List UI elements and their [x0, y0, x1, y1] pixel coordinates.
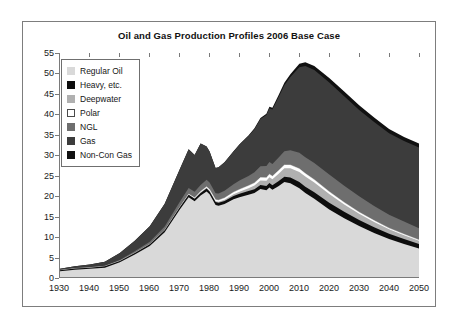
legend-item: Deepwater: [67, 92, 132, 106]
x-axis-tick-mark: [209, 53, 210, 57]
x-axis-tick-label: 1950: [109, 283, 129, 293]
y-axis-tick-mark: [55, 176, 59, 177]
y-axis-tick-mark: [55, 73, 59, 74]
y-axis-tick-label: 15: [44, 212, 54, 222]
y-axis-tick-label: 10: [44, 232, 54, 242]
x-axis-tick-mark: [299, 53, 300, 57]
x-axis-tick-mark: [269, 53, 270, 57]
x-axis-tick-label: 1930: [49, 283, 69, 293]
legend-item: Gas: [67, 134, 132, 148]
legend-label: Heavy, etc.: [80, 81, 122, 90]
legend-swatch-icon: [67, 67, 75, 75]
y-axis-tick-mark: [55, 135, 59, 136]
y-axis-tick-mark: [55, 278, 59, 279]
x-axis-tick-mark: [59, 53, 60, 57]
y-axis-tick-label: 30: [44, 150, 54, 160]
legend-swatch-icon: [67, 81, 75, 89]
y-axis-tick-label: 35: [44, 130, 54, 140]
y-axis-tick-mark: [55, 94, 59, 95]
x-axis-tick-mark: [239, 53, 240, 57]
y-axis-tick-label: 50: [44, 68, 54, 78]
chart-frame: Oil and Gas Production Profiles 2006 Bas…: [22, 21, 436, 307]
legend-label: Regular Oil: [80, 67, 123, 76]
legend-item: Heavy, etc.: [67, 78, 132, 92]
y-axis-tick-label: 25: [44, 171, 54, 181]
x-axis-tick-label: 2030: [349, 283, 369, 293]
y-axis-tick-mark: [55, 237, 59, 238]
legend-item: Non-Con Gas: [67, 148, 132, 162]
x-axis-tick-mark: [359, 53, 360, 57]
y-axis-tick-label: 0: [49, 273, 54, 283]
x-axis-tick-label: 1970: [169, 283, 189, 293]
chart-title: Oil and Gas Production Profiles 2006 Bas…: [23, 30, 435, 41]
x-axis-tick-mark: [149, 53, 150, 57]
x-axis-tick-mark: [119, 53, 120, 57]
legend-swatch-icon: [67, 123, 75, 131]
x-axis-tick-mark: [329, 53, 330, 57]
legend-label: Non-Con Gas: [80, 151, 132, 160]
y-axis-tick-mark: [55, 258, 59, 259]
y-axis-tick-mark: [55, 217, 59, 218]
legend-label: Gas: [80, 137, 96, 146]
legend-item: NGL: [67, 120, 132, 134]
x-axis-tick-mark: [89, 53, 90, 57]
y-axis-tick-label: 5: [49, 253, 54, 263]
x-axis-tick-mark: [419, 53, 420, 57]
legend-swatch-icon: [67, 109, 75, 117]
x-axis-tick-label: 2000: [259, 283, 279, 293]
legend-label: NGL: [80, 123, 97, 132]
y-axis-tick-label: 45: [44, 89, 54, 99]
x-axis-tick-mark: [179, 53, 180, 57]
y-axis-tick-label: 20: [44, 191, 54, 201]
x-axis-tick-label: 1990: [229, 283, 249, 293]
legend-swatch-icon: [67, 95, 75, 103]
x-axis-tick-mark: [389, 53, 390, 57]
y-axis-tick-mark: [55, 196, 59, 197]
legend-item: Polar: [67, 106, 132, 120]
x-axis-tick-label: 1960: [139, 283, 159, 293]
x-axis-tick-label: 1980: [199, 283, 219, 293]
legend-swatch-icon: [67, 137, 75, 145]
legend-label: Deepwater: [80, 95, 121, 104]
y-axis-tick-label: 40: [44, 109, 54, 119]
legend-item: Regular Oil: [67, 64, 132, 78]
chart-legend: Regular OilHeavy, etc.DeepwaterPolarNGLG…: [61, 59, 140, 167]
x-axis-tick-label: 1940: [79, 283, 99, 293]
legend-swatch-icon: [67, 151, 75, 159]
x-axis-tick-label: 2050: [409, 283, 429, 293]
x-axis-tick-label: 2040: [379, 283, 399, 293]
y-axis-tick-mark: [55, 155, 59, 156]
y-axis-tick-mark: [55, 114, 59, 115]
y-axis-tick-label: 55: [44, 48, 54, 58]
legend-label: Polar: [80, 109, 100, 118]
x-axis-tick-label: 2020: [319, 283, 339, 293]
x-axis-tick-label: 2010: [289, 283, 309, 293]
